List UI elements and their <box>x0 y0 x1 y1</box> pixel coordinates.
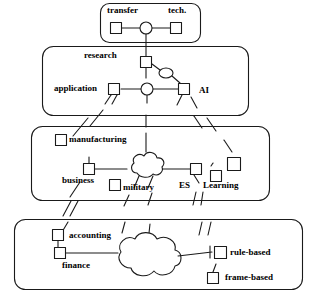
label-accounting: accounting <box>69 231 111 240</box>
node-learning-square-large <box>228 158 241 171</box>
node-research-ellipse <box>159 68 173 78</box>
node-application-square <box>109 84 120 95</box>
node-frame-based-square <box>208 273 219 284</box>
node-es-square <box>191 164 202 175</box>
node-finance-square <box>55 248 66 259</box>
edge-business-down-3 <box>70 201 78 216</box>
label-learning: Learning <box>203 181 239 190</box>
edge-business-down-2 <box>63 201 71 216</box>
label-ai: AI <box>199 86 209 95</box>
label-rule-based: rule-based <box>230 248 271 257</box>
node-research-square <box>141 57 152 68</box>
node-tech-square-right <box>171 23 182 34</box>
node-transfer-circle <box>140 22 152 34</box>
label-manufacturing: manufacturing <box>69 135 127 144</box>
node-ai-square <box>179 84 190 95</box>
node-military-square <box>110 180 121 191</box>
label-research: research <box>84 51 117 60</box>
label-frame-based: frame-based <box>225 273 273 282</box>
node-accounting-square <box>53 230 64 241</box>
label-tech: tech. <box>168 6 186 15</box>
node-transfer-square-left <box>111 23 122 34</box>
node-business-square <box>84 164 95 175</box>
label-finance: finance <box>62 261 90 270</box>
diagram-canvas: transfer tech. research application AI m… <box>0 0 315 302</box>
label-business: business <box>62 176 94 185</box>
node-manufacturing-square <box>56 135 67 146</box>
label-es: ES <box>179 181 190 190</box>
label-transfer: transfer <box>107 6 138 15</box>
label-military: military <box>123 183 154 192</box>
node-rule-based-square <box>215 247 227 259</box>
label-application: application <box>54 84 97 93</box>
node-application-circle <box>141 83 153 95</box>
